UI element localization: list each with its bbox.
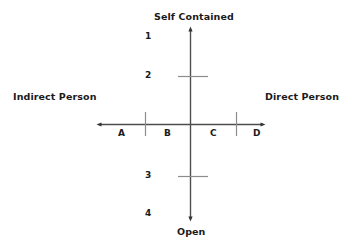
horizontal-axis-right-label: Direct Person [265, 92, 339, 102]
horizontal-axis-left-label: Indirect Person [13, 92, 97, 102]
horizontal-scale-label-b: B [164, 129, 171, 138]
vertical-scale-label-2: 2 [145, 71, 151, 80]
horizontal-scale-label-a: A [118, 129, 125, 138]
axis-lines-group [0, 0, 346, 248]
vertical-axis-bottom-arrow-icon [188, 217, 192, 222]
vertical-axis-top-label: Self Contained [154, 12, 234, 22]
horizontal-axis-right-arrow-icon [261, 122, 266, 126]
vertical-scale-label-1: 1 [145, 32, 151, 41]
horizontal-scale-label-d: D [253, 129, 260, 138]
vertical-axis-bottom-label: Open [177, 227, 205, 237]
quadrant-diagram: Self Contained Open Indirect Person Dire… [0, 0, 346, 248]
vertical-scale-label-3: 3 [145, 171, 151, 180]
vertical-scale-label-4: 4 [145, 209, 151, 218]
horizontal-axis-left-arrow-icon [97, 122, 102, 126]
vertical-axis-top-arrow-icon [188, 27, 192, 32]
horizontal-scale-label-c: C [210, 129, 217, 138]
